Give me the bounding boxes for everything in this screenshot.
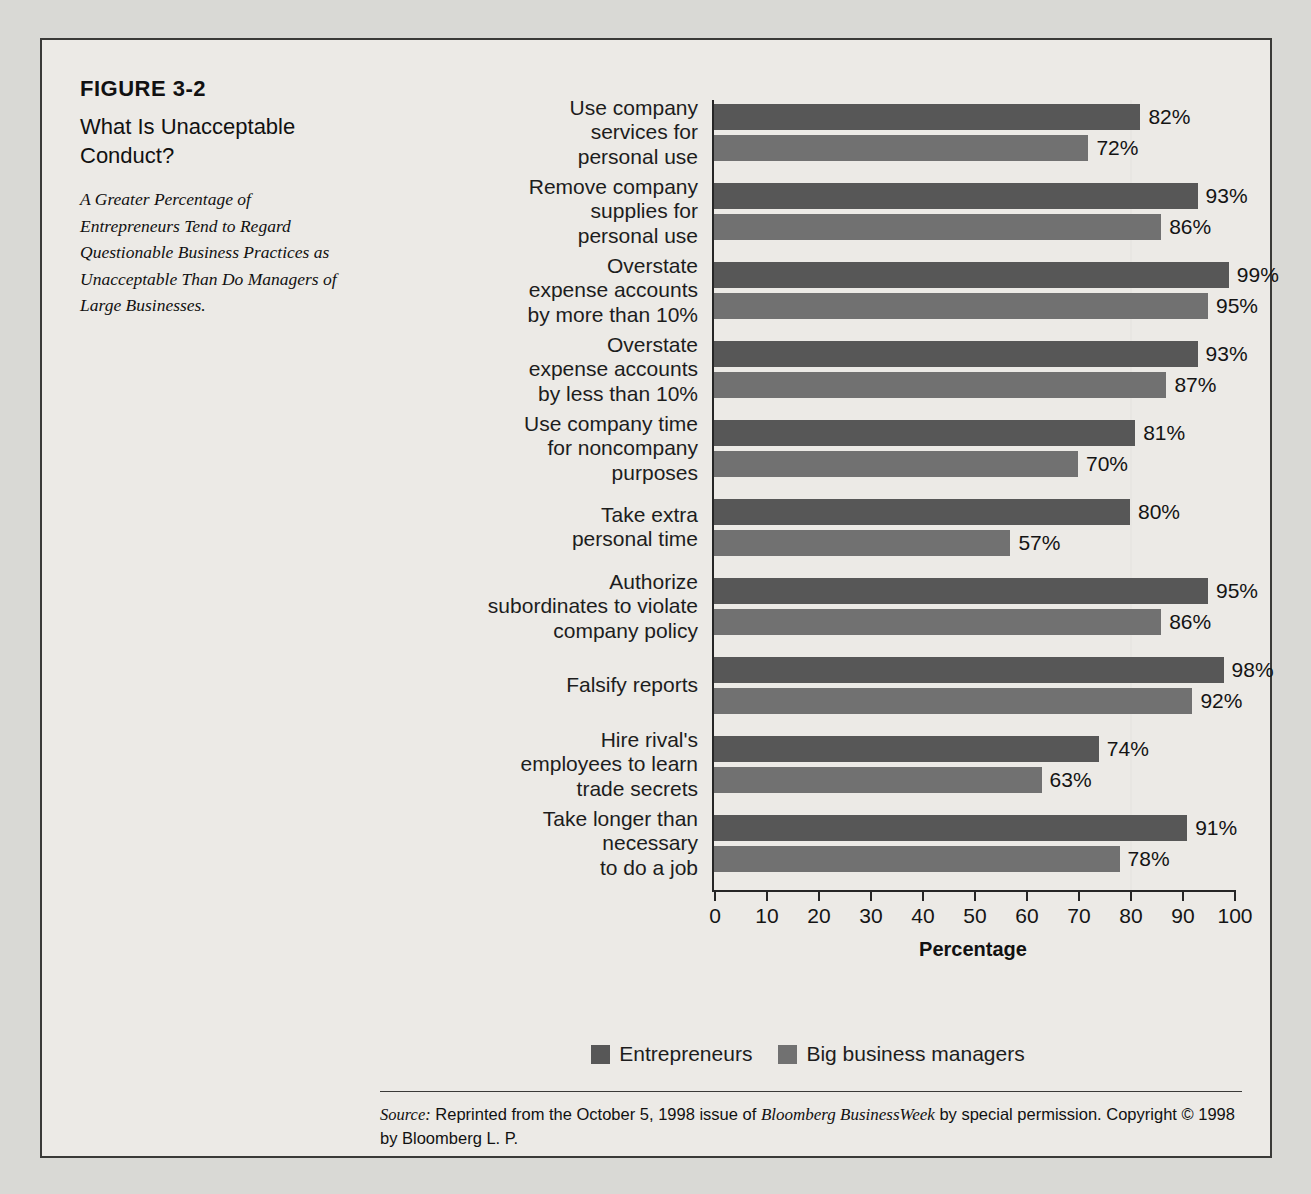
legend-item-big-business-managers[interactable]: Big business managers [778, 1042, 1024, 1066]
category-label: Hire rival'semployees to learntrade secr… [521, 728, 698, 802]
bar-entrepreneurs [714, 262, 1229, 288]
x-tick [922, 890, 924, 901]
bar-entrepreneurs [714, 420, 1135, 446]
bar-entrepreneurs [714, 341, 1198, 367]
category-label: Overstateexpense accountsby more than 10… [528, 254, 698, 328]
bar-value-label: 86% [1169, 215, 1211, 239]
category-label-line: Falsify reports [566, 673, 698, 698]
legend-item-entrepreneurs[interactable]: Entrepreneurs [591, 1042, 752, 1066]
bar-value-label: 87% [1174, 373, 1216, 397]
x-tick [974, 890, 976, 901]
bar-big-business-managers [714, 135, 1088, 161]
bar-big-business-managers [714, 451, 1078, 477]
bar-big-business-managers [714, 214, 1161, 240]
bar-entrepreneurs [714, 657, 1224, 683]
x-tick [870, 890, 872, 901]
category-label: Use company timefor noncompanypurposes [524, 412, 698, 486]
category-label-line: by more than 10% [528, 303, 698, 328]
figure-frame: FIGURE 3-2 What Is Unacceptable Conduct?… [40, 38, 1272, 1158]
category-label-line: Remove company [529, 175, 698, 200]
x-tick-label: 60 [1015, 904, 1038, 928]
x-tick-label: 40 [911, 904, 934, 928]
x-tick-label: 10 [755, 904, 778, 928]
bar-value-label: 95% [1216, 294, 1258, 318]
category-label: Use companyservices forpersonal use [570, 96, 698, 170]
bar-entrepreneurs [714, 578, 1208, 604]
x-tick-label: 30 [859, 904, 882, 928]
bar-entrepreneurs [714, 736, 1099, 762]
category-label-line: company policy [488, 619, 698, 644]
bar-entrepreneurs [714, 815, 1187, 841]
category-label: Remove companysupplies forpersonal use [529, 175, 698, 249]
bar-big-business-managers [714, 293, 1208, 319]
category-label-line: to do a job [543, 856, 698, 881]
x-tick [818, 890, 820, 901]
source-divider [380, 1091, 1242, 1092]
bar-value-label: 95% [1216, 579, 1258, 603]
figure-title: What Is Unacceptable Conduct? [80, 112, 340, 170]
bar-big-business-managers [714, 530, 1010, 556]
source-text-before: Reprinted from the October 5, 1998 issue… [431, 1105, 761, 1123]
category-label-line: Authorize [488, 570, 698, 595]
category-label-line: personal use [570, 145, 698, 170]
category-label-line: Take longer than [543, 807, 698, 832]
category-label-line: Overstate [528, 254, 698, 279]
bars-container: 82%72%93%86%99%95%93%87%81%70%80%57%95%8… [714, 100, 1234, 890]
x-tick [714, 890, 716, 901]
category-label-line: Hire rival's [521, 728, 698, 753]
x-tick-label: 90 [1171, 904, 1194, 928]
bar-big-business-managers [714, 767, 1042, 793]
category-label-line: Overstate [529, 333, 698, 358]
bar-value-label: 74% [1107, 737, 1149, 761]
x-tick-label: 100 [1217, 904, 1252, 928]
x-tick [1026, 890, 1028, 901]
figure-subtitle: A Greater Percentage of Entrepreneurs Te… [80, 186, 340, 319]
category-label: Take longer thannecessaryto do a job [543, 807, 698, 881]
category-label-line: supplies for [529, 199, 698, 224]
bar-entrepreneurs [714, 104, 1140, 130]
category-label-line: personal use [529, 224, 698, 249]
category-label-line: purposes [524, 461, 698, 486]
bar-value-label: 91% [1195, 816, 1237, 840]
category-label: Falsify reports [566, 673, 698, 698]
category-label: Overstateexpense accountsby less than 10… [529, 333, 698, 407]
x-tick [1078, 890, 1080, 901]
x-axis-line [712, 890, 1234, 892]
bar-value-label: 70% [1086, 452, 1128, 476]
bar-value-label: 72% [1096, 136, 1138, 160]
x-tick-label: 70 [1067, 904, 1090, 928]
x-tick-label: 0 [709, 904, 721, 928]
bar-value-label: 92% [1200, 689, 1242, 713]
legend-swatch-entrepreneurs [591, 1045, 610, 1064]
category-label-line: Take extra [572, 503, 698, 528]
category-label-line: trade secrets [521, 777, 698, 802]
figure-number: FIGURE 3-2 [80, 76, 340, 102]
bar-value-label: 81% [1143, 421, 1185, 445]
bar-big-business-managers [714, 688, 1192, 714]
bar-entrepreneurs [714, 183, 1198, 209]
bar-value-label: 93% [1206, 342, 1248, 366]
x-tick [1130, 890, 1132, 901]
chart-plot-area: Use companyservices forpersonal useRemov… [382, 100, 1234, 920]
bar-value-label: 80% [1138, 500, 1180, 524]
bar-value-label: 86% [1169, 610, 1211, 634]
bar-value-label: 63% [1050, 768, 1092, 792]
caption-column: FIGURE 3-2 What Is Unacceptable Conduct?… [80, 76, 340, 319]
source-note: Source: Reprinted from the October 5, 19… [380, 1103, 1248, 1151]
legend-swatch-big-business-managers [778, 1045, 797, 1064]
x-tick-label: 50 [963, 904, 986, 928]
bar-big-business-managers [714, 372, 1166, 398]
category-label: Authorizesubordinates to violatecompany … [488, 570, 698, 644]
bar-big-business-managers [714, 846, 1120, 872]
bar-value-label: 98% [1232, 658, 1274, 682]
source-publication: Bloomberg BusinessWeek [761, 1105, 935, 1124]
figure-page: FIGURE 3-2 What Is Unacceptable Conduct?… [0, 0, 1311, 1194]
category-label-line: expense accounts [528, 278, 698, 303]
x-axis-title: Percentage [712, 938, 1234, 961]
bar-value-label: 57% [1018, 531, 1060, 555]
bar-entrepreneurs [714, 499, 1130, 525]
bar-big-business-managers [714, 609, 1161, 635]
category-label-line: necessary [543, 831, 698, 856]
source-label: Source: [380, 1105, 431, 1124]
x-tick [766, 890, 768, 901]
